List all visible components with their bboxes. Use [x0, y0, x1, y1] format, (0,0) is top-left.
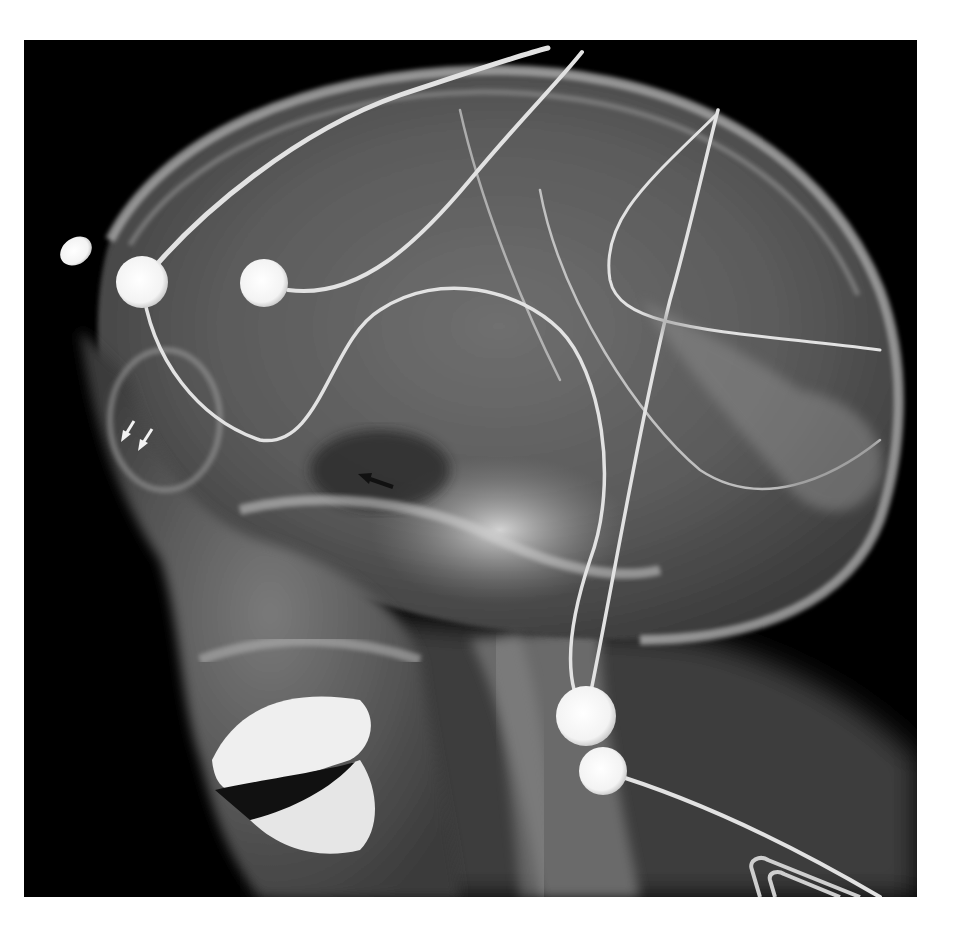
electrode-frontal-1	[116, 256, 168, 308]
radiograph-frame	[24, 40, 917, 897]
skull-xray-image	[24, 40, 917, 897]
electrode-frontal-2	[240, 259, 288, 307]
electrode-neck-2	[579, 747, 627, 795]
electrode-neck-1	[556, 686, 616, 746]
